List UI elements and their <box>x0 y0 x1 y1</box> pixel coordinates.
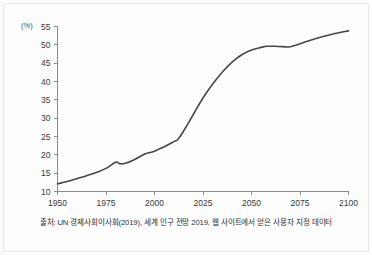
y-axis: 10152025303540455055 <box>41 22 57 197</box>
y-tick-label: 45 <box>41 58 51 68</box>
x-tick-label: 2025 <box>194 198 213 208</box>
x-tick-label: 1975 <box>97 198 116 208</box>
y-tick-label: 50 <box>41 40 51 50</box>
y-axis-unit-label: (%) <box>21 21 33 30</box>
x-axis-tick-labels: 1950197520002025205020752100 <box>48 198 358 208</box>
chart-figure: 10152025303540455055 1950197520002025205… <box>0 0 372 255</box>
x-axis: 1950197520002025205020752100 <box>48 192 358 208</box>
y-tick-label: 20 <box>41 150 51 160</box>
x-tick-label: 1950 <box>48 198 67 208</box>
x-tick-label: 2100 <box>339 198 358 208</box>
x-axis-ticks <box>58 192 349 196</box>
x-tick-label: 2075 <box>291 198 310 208</box>
y-tick-label: 35 <box>41 95 51 105</box>
x-tick-label: 2000 <box>145 198 164 208</box>
y-axis-tick-labels: 10152025303540455055 <box>41 22 51 197</box>
y-tick-label: 15 <box>41 168 51 178</box>
data-series-line <box>58 31 349 184</box>
y-tick-label: 40 <box>41 77 51 87</box>
y-axis-ticks <box>54 27 58 192</box>
y-tick-label: 30 <box>41 113 51 123</box>
source-caption: 출처: UN 경제사회이사회(2019), 세계 인구 전망 2019, 웹 사… <box>0 218 372 228</box>
y-tick-label: 10 <box>41 187 51 197</box>
y-tick-label: 55 <box>41 22 51 32</box>
line-chart-plot: 10152025303540455055 1950197520002025205… <box>0 0 372 255</box>
x-tick-label: 2050 <box>242 198 261 208</box>
y-tick-label: 25 <box>41 132 51 142</box>
